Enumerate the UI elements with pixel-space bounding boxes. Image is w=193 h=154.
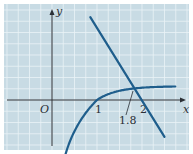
y-axis-label: y	[55, 5, 63, 18]
x-axis-label: x	[183, 103, 190, 116]
intersection-annotation: 1.8	[119, 114, 137, 127]
x-tick-1: 1	[95, 103, 102, 116]
chart-figure: x y O 1 2 1.8	[0, 0, 193, 154]
origin-label: O	[40, 103, 49, 116]
